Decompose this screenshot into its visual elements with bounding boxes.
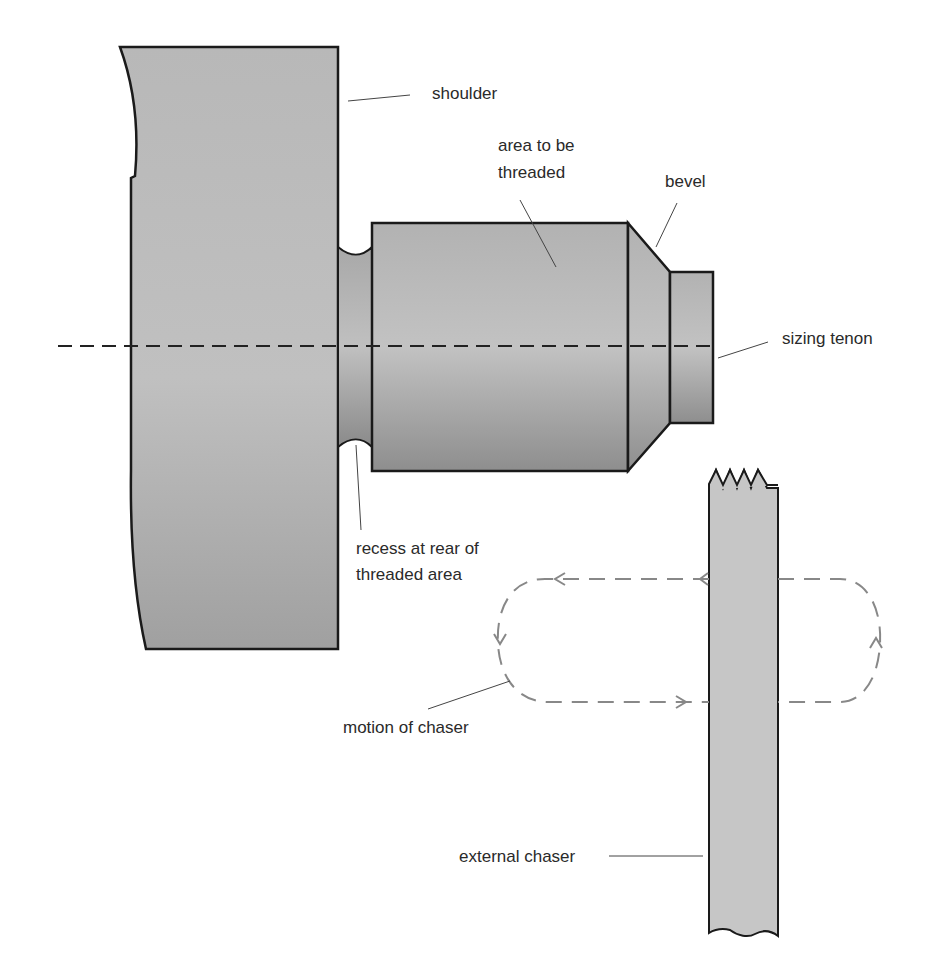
arrow-left-down-icon [494,634,506,644]
sizing-tenon-leader [718,342,768,358]
label-area-to-be-threaded-line2: threaded [498,163,565,182]
external-chaser-shape [709,470,778,936]
label-recess-line2: threaded area [356,565,462,584]
label-sizing-tenon: sizing tenon [782,329,873,348]
label-recess-line1: recess at rear of [356,539,479,558]
label-motion-of-chaser: motion of chaser [343,718,469,737]
shoulder-leader [348,95,410,101]
diagram-canvas: shoulder area to be threaded bevel sizin… [0,0,931,980]
sizing-tenon-shape [670,272,713,423]
chaser-motion-path-right [778,579,880,702]
chaser-motion-path [498,579,709,702]
label-shoulder: shoulder [432,84,498,103]
recess-leader [356,445,361,530]
label-bevel: bevel [665,172,706,191]
motion-leader [428,681,510,709]
label-area-to-be-threaded-line1: area to be [498,136,575,155]
label-external-chaser: external chaser [459,847,576,866]
bevel-leader [656,203,677,247]
shoulder-shape [120,47,338,649]
